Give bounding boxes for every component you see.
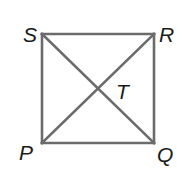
vertex-label-r: R [159,23,174,46]
intersection-label-t: T [116,80,131,103]
vertex-label-p: P [19,141,33,164]
vertex-label-s: S [23,23,37,46]
vertex-label-q: Q [157,143,173,166]
square-diagram: S R P Q T [0,0,177,171]
